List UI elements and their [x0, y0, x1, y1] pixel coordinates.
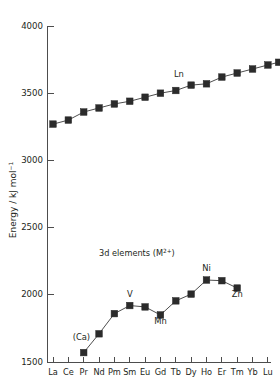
x-tick-label: Eu [140, 367, 150, 377]
data-point-marker [219, 74, 226, 81]
x-tick-label: Gd [155, 367, 167, 377]
data-point-marker [203, 277, 210, 284]
data-point-marker [80, 349, 87, 356]
data-point-marker [126, 98, 133, 105]
series-lines [53, 62, 279, 352]
y-axis-tick-labels: 150020002500300035004000 [21, 21, 43, 367]
data-point-marker [173, 298, 180, 305]
y-tick-label: 3500 [21, 88, 43, 98]
data-point-marker [65, 117, 72, 124]
y-axis-title: Energy / kJ mol−1 [8, 162, 18, 239]
annotation-ca: (Ca) [73, 332, 91, 342]
data-point-marker [111, 101, 118, 108]
data-point-marker [96, 105, 103, 112]
y-tick-label: 1500 [21, 357, 43, 367]
data-point-marker [111, 310, 118, 317]
annotation-zn: Zn [232, 289, 243, 299]
data-point-marker [188, 82, 195, 89]
x-tick-label: Ho [201, 367, 212, 377]
y-axis-ticks [48, 26, 54, 362]
data-point-marker [188, 291, 195, 298]
data-point-marker [50, 121, 57, 128]
y-tick-label: 2000 [21, 289, 43, 299]
x-tick-label: Tb [170, 367, 181, 377]
y-axis-title-text: Energy / kJ mol [8, 170, 18, 238]
lanthanide-ionisation-energy-chart: Energy / kJ mol−1 1500200025003000350040… [0, 0, 280, 392]
x-tick-label: Yb [246, 367, 257, 377]
y-tick-label: 2500 [21, 222, 43, 232]
data-point-marker [265, 62, 272, 69]
x-tick-label: La [48, 367, 58, 377]
data-point-marker [142, 304, 149, 311]
data-point-marker [157, 90, 164, 97]
data-point-marker [203, 80, 210, 87]
data-point-marker [80, 109, 87, 116]
x-tick-label: Ce [63, 367, 74, 377]
data-point-marker [219, 277, 226, 284]
annotation-ln: Ln [174, 69, 184, 79]
x-tick-label: Dy [186, 367, 197, 377]
x-tick-label: Pr [80, 367, 89, 377]
data-point-marker [142, 94, 149, 101]
x-tick-label: Tm [230, 367, 244, 377]
y-axis-title-superscript: −1 [8, 162, 14, 171]
x-tick-label: Lu [263, 367, 273, 377]
data-point-marker [275, 59, 280, 66]
data-point-marker [96, 330, 103, 337]
x-axis-tick-labels: LaCePrNdPmSmEuGdTbDyHoErTmYbLu [48, 367, 273, 377]
annotation-mn: Mn [154, 316, 167, 326]
annotation-ni: Ni [202, 263, 211, 273]
data-point-marker [249, 66, 256, 73]
x-tick-label: Pm [108, 367, 121, 377]
data-point-marker [126, 302, 133, 309]
annotation-v: V [127, 289, 133, 299]
chart-plot-area: Energy / kJ mol−1 1500200025003000350040… [0, 0, 280, 392]
data-point-marker [173, 87, 180, 94]
y-tick-label: 4000 [21, 21, 43, 31]
y-tick-label: 3000 [21, 155, 43, 165]
x-tick-label: Nd [93, 367, 104, 377]
x-tick-label: Er [218, 367, 227, 377]
x-tick-label: Sm [123, 367, 136, 377]
svg-text:Energy / kJ mol−1: Energy / kJ mol−1 [8, 162, 18, 239]
x-axis-ticks [53, 357, 268, 363]
data-point-marker [234, 70, 241, 77]
annotation-3d-elements: 3d elements (M2+) [99, 248, 175, 258]
